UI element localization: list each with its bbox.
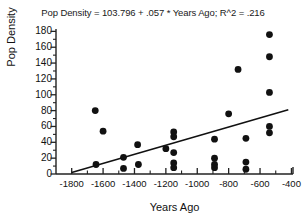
plot-canvas: [56, 29, 293, 174]
data-points: [92, 31, 273, 172]
data-point: [120, 154, 127, 161]
y-axis-tick-labels: 020406080100120140160180: [22, 29, 52, 174]
x-axis-tick-labels: -1800-1600-1400-1200-1000-800-600-400: [56, 178, 293, 192]
y-tick-label: 160: [24, 42, 52, 52]
data-point: [243, 166, 250, 173]
data-point: [100, 128, 107, 135]
data-point: [93, 161, 100, 168]
data-point: [92, 107, 99, 114]
data-point: [266, 31, 273, 38]
y-tick-label: 120: [24, 74, 52, 84]
data-point: [120, 165, 127, 172]
data-point: [266, 89, 273, 96]
data-point: [162, 145, 169, 152]
data-point: [235, 66, 242, 73]
y-tick-label: 140: [24, 58, 52, 68]
data-point: [211, 136, 218, 143]
y-axis-label: Pop Density: [5, 0, 17, 92]
data-point: [211, 164, 218, 171]
data-point: [266, 129, 273, 136]
data-point: [243, 135, 250, 142]
y-tick-label: 40: [24, 137, 52, 147]
scatter-chart: Pop Density = 103.796 + .057 * Years Ago…: [0, 0, 306, 224]
data-point: [170, 149, 177, 156]
x-axis-label: Years Ago: [56, 201, 293, 213]
data-point: [170, 164, 177, 171]
y-tick-label: 180: [24, 26, 52, 36]
regression-line-segment: [72, 110, 289, 173]
data-point: [225, 110, 232, 117]
data-point: [266, 53, 273, 60]
y-tick-label: 20: [24, 153, 52, 163]
y-tick-label: 80: [24, 106, 52, 116]
plot-area: [56, 29, 293, 174]
data-point: [243, 159, 250, 166]
y-tick-label: 100: [24, 90, 52, 100]
data-point: [170, 133, 177, 140]
x-tick-label: -400: [271, 178, 306, 189]
y-tick-label: 60: [24, 121, 52, 131]
data-point: [211, 155, 218, 162]
regression-line: [72, 110, 289, 173]
chart-title: Pop Density = 103.796 + .057 * Years Ago…: [0, 7, 306, 18]
data-point: [135, 161, 142, 168]
data-point: [134, 141, 141, 148]
data-point: [266, 123, 273, 130]
y-tick-label: 0: [24, 169, 52, 179]
